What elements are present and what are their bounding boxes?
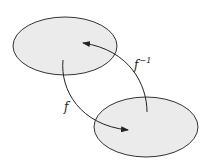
label-f-inverse-superscript: −1 <box>139 56 151 65</box>
label-f-inverse: f−1 <box>133 56 151 72</box>
function-diagram: f f−1 <box>0 0 212 160</box>
label-f: f <box>63 100 71 114</box>
domain-set-ellipse <box>13 17 117 75</box>
codomain-set-ellipse <box>94 97 198 157</box>
